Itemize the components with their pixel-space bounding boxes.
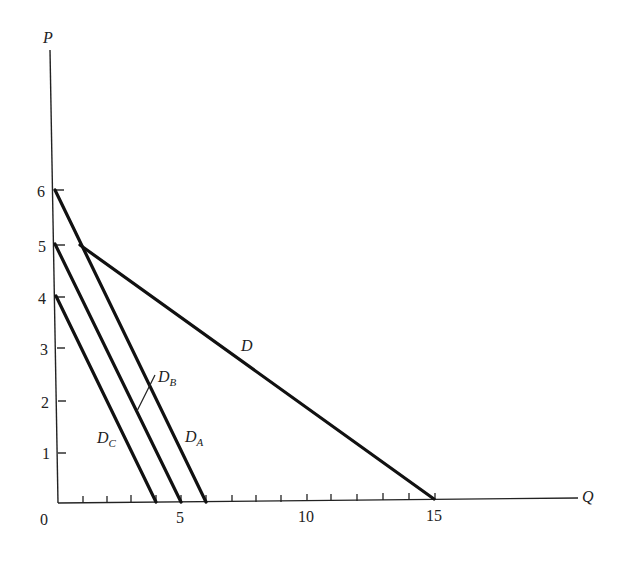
x-axis-label: Q <box>582 488 594 505</box>
y-axis-label: P <box>42 29 53 46</box>
curve-label-db: DB <box>157 368 177 388</box>
curve-label-dc: DC <box>96 429 117 449</box>
curve-dc <box>56 296 156 502</box>
y-tick-label-3: 3 <box>40 341 48 358</box>
y-tick-label-4: 4 <box>38 290 46 307</box>
y-tick-label-2: 2 <box>41 394 49 411</box>
y-ticks <box>56 190 66 453</box>
y-tick-label-5: 5 <box>38 238 46 255</box>
origin-label: 0 <box>40 511 48 528</box>
curve-label-da: DA <box>184 428 204 448</box>
curve-d <box>80 245 434 499</box>
demand-chart: P Q 0 5 10 15 6 5 4 3 2 1 D DB DA DC <box>0 0 621 562</box>
curve-da <box>55 190 206 502</box>
x-tick-label-15: 15 <box>426 507 442 524</box>
curve-label-d: D <box>240 337 253 354</box>
x-tick-label-5: 5 <box>176 509 184 526</box>
x-tick-label-10: 10 <box>298 508 314 525</box>
y-tick-label-1: 1 <box>42 445 50 462</box>
y-tick-label-6: 6 <box>37 183 45 200</box>
y-axis <box>50 50 58 503</box>
x-axis <box>58 498 578 503</box>
